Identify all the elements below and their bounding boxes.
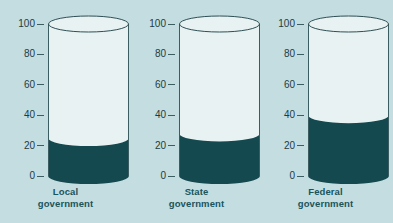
cylinder-shape [179, 15, 260, 185]
y-axis-tick-mark [168, 176, 175, 177]
y-axis-tick: 40 [260, 109, 306, 121]
cylinder [48, 15, 129, 185]
category-label: Localgovernment [0, 186, 131, 210]
y-axis-tick-mark [168, 24, 175, 25]
cylinder [179, 15, 260, 185]
y-axis-tick-label: 60 [155, 79, 166, 91]
y-axis-tick: 60 [0, 79, 46, 91]
y-axis-tick: 80 [0, 48, 46, 60]
y-axis-tick-mark [297, 145, 304, 146]
y-axis-tick-label: 0 [289, 170, 295, 182]
y-axis-tick-label: 80 [284, 48, 295, 60]
y-axis-tick-mark [37, 84, 44, 85]
category-label-line: government [131, 198, 262, 210]
category-label-line: government [260, 198, 391, 210]
y-axis-tick-mark [297, 115, 304, 116]
y-axis-tick-label: 0 [29, 170, 35, 182]
y-axis-tick-mark [168, 84, 175, 85]
y-axis-tick-mark [37, 24, 44, 25]
y-axis-tick-label: 40 [284, 109, 295, 121]
cylinder-shape [48, 15, 129, 185]
y-axis-tick-label: 40 [24, 109, 35, 121]
y-axis-tick: 20 [131, 140, 177, 152]
y-axis-tick-mark [37, 145, 44, 146]
y-axis-tick-label: 100 [278, 18, 295, 30]
y-axis-tick-mark [297, 176, 304, 177]
y-axis-tick: 40 [131, 109, 177, 121]
category-label-line: Local [0, 186, 131, 198]
category-label-line: State [131, 186, 262, 198]
cylinder-group: 020406080100Federalgovernment [260, 0, 391, 223]
category-label-line: government [0, 198, 131, 210]
cylinder-group: 020406080100Stategovernment [131, 0, 262, 223]
y-axis-tick-mark [297, 24, 304, 25]
y-axis-tick: 0 [260, 170, 306, 182]
y-axis-tick: 0 [131, 170, 177, 182]
cylinder-shape [308, 15, 389, 185]
y-axis-tick-mark [168, 115, 175, 116]
cylinder-group: 020406080100Localgovernment [0, 0, 131, 223]
y-axis-tick-mark [168, 145, 175, 146]
y-axis-tick-label: 40 [155, 109, 166, 121]
y-axis-tick-label: 20 [24, 140, 35, 152]
y-axis-tick-label: 0 [160, 170, 166, 182]
y-axis-tick-mark [297, 84, 304, 85]
y-axis-tick-label: 100 [18, 18, 35, 30]
y-axis-tick: 80 [131, 48, 177, 60]
y-axis-tick-label: 80 [24, 48, 35, 60]
cylinder [308, 15, 389, 185]
y-axis-tick-mark [37, 54, 44, 55]
category-label-line: Federal [260, 186, 391, 198]
y-axis-tick: 100 [131, 18, 177, 30]
category-label: Federalgovernment [260, 186, 391, 210]
y-axis-tick: 0 [0, 170, 46, 182]
y-axis-tick: 60 [131, 79, 177, 91]
y-axis-tick-label: 100 [149, 18, 166, 30]
cylinder-fill-region [308, 115, 389, 184]
cylinder-chart: 020406080100Localgovernment020406080100S… [0, 0, 393, 223]
y-axis-tick: 80 [260, 48, 306, 60]
y-axis-tick: 100 [260, 18, 306, 30]
y-axis-tick-label: 60 [284, 79, 295, 91]
y-axis-tick: 20 [0, 140, 46, 152]
y-axis-tick-label: 60 [24, 79, 35, 91]
y-axis-tick-mark [168, 54, 175, 55]
y-axis-tick-label: 20 [155, 140, 166, 152]
y-axis-tick-mark [37, 115, 44, 116]
y-axis-tick: 60 [260, 79, 306, 91]
category-label: Stategovernment [131, 186, 262, 210]
y-axis-tick-mark [37, 176, 44, 177]
y-axis-tick: 100 [0, 18, 46, 30]
y-axis-tick-mark [297, 54, 304, 55]
y-axis-tick: 20 [260, 140, 306, 152]
y-axis-tick: 40 [0, 109, 46, 121]
y-axis-tick-label: 20 [284, 140, 295, 152]
y-axis-tick-label: 80 [155, 48, 166, 60]
